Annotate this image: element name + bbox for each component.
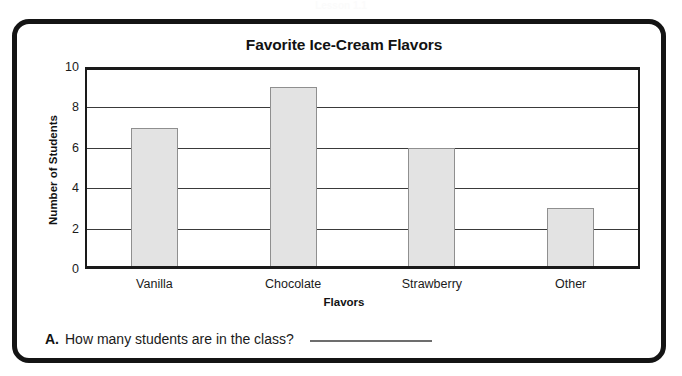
- x-tick-label-strawberry: Strawberry: [402, 277, 462, 291]
- y-tick-label-10: 10: [65, 60, 79, 74]
- y-tick-label-2: 2: [72, 222, 79, 236]
- bar-vanilla: [131, 128, 178, 269]
- question-a: A. How many students are in the class?: [45, 331, 645, 359]
- x-axis-title: Flavors: [17, 296, 671, 308]
- question-letter: A.: [45, 331, 59, 347]
- y-tick-label-0: 0: [72, 262, 79, 276]
- chart-title: Favorite Ice-Cream Flavors: [17, 36, 671, 54]
- question-text: How many students are in the class?: [65, 331, 294, 347]
- x-tick-label-vanilla: Vanilla: [136, 277, 173, 291]
- y-axis-title: Number of Students: [47, 90, 59, 250]
- gridline-8: [85, 107, 640, 108]
- x-tick-label-chocolate: Chocolate: [265, 277, 321, 291]
- bar-chart: Favorite Ice-Cream Flavors Number of Stu…: [17, 24, 671, 304]
- bar-chocolate: [270, 87, 317, 269]
- y-tick-label-8: 8: [72, 100, 79, 114]
- x-tick-label-other: Other: [555, 277, 586, 291]
- cropped-page-header: Lesson 1.1: [0, 0, 682, 12]
- bar-other: [547, 208, 594, 269]
- y-tick-label-4: 4: [72, 181, 79, 195]
- bar-strawberry: [408, 148, 455, 269]
- answer-blank-input[interactable]: [310, 340, 432, 342]
- plot-area: 0246810 VanillaChocolateStrawberryOther: [85, 67, 640, 269]
- worksheet-card: Favorite Ice-Cream Flavors Number of Stu…: [12, 19, 666, 363]
- y-tick-label-6: 6: [72, 141, 79, 155]
